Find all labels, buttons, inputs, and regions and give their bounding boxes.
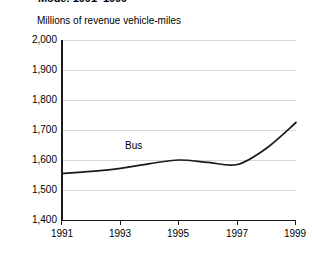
series-plot-layer <box>0 0 312 255</box>
chart-figure: Mode: 1991–1999 Millions of revenue vehi… <box>0 0 312 255</box>
series-label-bus: Bus <box>125 141 142 151</box>
series-line-bus <box>62 123 296 174</box>
